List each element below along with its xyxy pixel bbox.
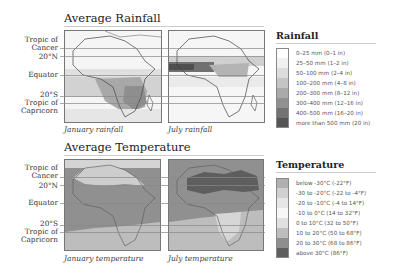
legend-label: above 30°C (86°F) xyxy=(296,250,348,256)
lat-20n-label: 20°N xyxy=(12,53,58,61)
rainfall-title-rule xyxy=(64,26,264,27)
july-temperature-caption: July temperature xyxy=(168,254,233,263)
legend-item: 0–25 mm (0–1 in) xyxy=(276,48,370,58)
legend-swatch xyxy=(276,108,289,118)
legend-item: more than 500 mm (20 in) xyxy=(276,118,370,128)
tropic-capricorn-label-2: Capricorn xyxy=(21,106,58,115)
legend-swatch xyxy=(276,188,289,198)
rainfall-title: Average Rainfall xyxy=(64,11,161,25)
legend-swatch xyxy=(276,78,289,88)
legend-item: 300–400 mm (12–16 in) xyxy=(276,98,370,108)
legend-item: 200–300 mm (8–12 in) xyxy=(276,88,370,98)
legend-swatch xyxy=(276,198,289,208)
july-rainfall-map xyxy=(168,30,265,123)
legend-swatch xyxy=(276,178,289,188)
legend-label: 25–50 mm (1–2 in) xyxy=(296,60,349,66)
legend-swatch xyxy=(276,208,289,218)
temp-20s-line xyxy=(60,225,265,226)
january-temperature-caption: January temperature xyxy=(64,254,144,263)
legend-item: below -30°C (-22°F) xyxy=(276,178,366,188)
legend-label: 300–400 mm (12–16 in) xyxy=(296,100,363,106)
temp-tropic-capricorn-line xyxy=(60,232,265,233)
legend-swatch xyxy=(276,58,289,68)
legend-label: 10 to 20°C (50 to 68°F) xyxy=(296,230,362,236)
t-tropic-capricorn-label-2: Capricorn xyxy=(21,235,58,244)
legend-label: 50–100 mm (2–4 in) xyxy=(296,70,352,76)
legend-swatch xyxy=(276,48,289,58)
legend-swatch xyxy=(276,68,289,78)
legend-label: 100–200 mm (4–8 in) xyxy=(296,80,356,86)
legend-swatch xyxy=(276,248,289,258)
july-rainfall-caption: July rainfall xyxy=(168,125,212,134)
legend-label: 20 to 30°C (68 to 86°F) xyxy=(296,240,362,246)
legend-swatch xyxy=(276,238,289,248)
legend-swatch xyxy=(276,98,289,108)
july-temperature-map xyxy=(168,159,264,251)
legend-item: 25–50 mm (1–2 in) xyxy=(276,58,370,68)
legend-swatch xyxy=(276,88,289,98)
legend-swatch xyxy=(276,118,289,128)
legend-item: above 30°C (86°F) xyxy=(276,248,366,258)
temperature-legend: below -30°C (-22°F)-30 to -20°C (-22 to … xyxy=(276,178,366,258)
temperature-title: Average Temperature xyxy=(64,140,191,154)
legend-item: 400–500 mm (16–20 in) xyxy=(276,108,370,118)
january-rainfall-caption: January rainfall xyxy=(64,125,123,134)
rainfall-equator-line xyxy=(60,75,265,76)
legend-swatch xyxy=(276,218,289,228)
t-equator-label: Equator xyxy=(12,199,58,207)
legend-item: 50–100 mm (2–4 in) xyxy=(276,68,370,78)
legend-label: 400–500 mm (16–20 in) xyxy=(296,110,363,116)
tropic-cancer-label-2: Cancer xyxy=(31,43,58,52)
legend-label: 0–25 mm (0–1 in) xyxy=(296,50,345,56)
rainfall-tropic-capricorn-line xyxy=(60,103,265,104)
legend-item: 0 to 10°C (32 to 50°F) xyxy=(276,218,366,228)
temp-20n-line xyxy=(60,185,265,186)
temp-equator-line xyxy=(60,203,265,204)
rainfall-20n-line xyxy=(60,56,265,57)
legend-label: 0 to 10°C (32 to 50°F) xyxy=(296,220,358,226)
january-temperature-map xyxy=(64,159,161,251)
rainfall-tropic-cancer-line xyxy=(60,48,265,49)
legend-label: -30 to -20°C (-22 to -4°F) xyxy=(296,190,366,196)
legend-item: -30 to -20°C (-22 to -4°F) xyxy=(276,188,366,198)
legend-item: -10 to 0°C (14 to 32°F) xyxy=(276,208,366,218)
temperature-legend-title: Temperature xyxy=(276,159,344,170)
rainfall-legend: 0–25 mm (0–1 in)25–50 mm (1–2 in)50–100 … xyxy=(276,48,370,128)
legend-label: below -30°C (-22°F) xyxy=(296,180,351,186)
equator-label: Equator xyxy=(12,71,58,79)
temp-tropic-cancer-line xyxy=(60,177,265,178)
rainfall-20s-line xyxy=(60,96,265,97)
temperature-title-rule xyxy=(64,155,264,156)
legend-label: more than 500 mm (20 in) xyxy=(296,120,370,126)
legend-label: -10 to 0°C (14 to 32°F) xyxy=(296,210,360,216)
rainfall-legend-title: Rainfall xyxy=(276,30,318,41)
legend-label: 200–300 mm (8–12 in) xyxy=(296,90,359,96)
rainfall-legend-rule xyxy=(276,43,376,44)
january-rainfall-map xyxy=(64,30,162,123)
t-lat-20n-label: 20°N xyxy=(12,182,58,190)
t-tropic-cancer-label-2: Cancer xyxy=(31,171,58,180)
legend-label: -20 to -10°C (-4 to 14°F) xyxy=(296,200,364,206)
temperature-legend-rule xyxy=(276,172,376,173)
legend-item: -20 to -10°C (-4 to 14°F) xyxy=(276,198,366,208)
legend-swatch xyxy=(276,228,289,238)
legend-item: 100–200 mm (4–8 in) xyxy=(276,78,370,88)
legend-item: 10 to 20°C (50 to 68°F) xyxy=(276,228,366,238)
legend-item: 20 to 30°C (68 to 86°F) xyxy=(276,238,366,248)
